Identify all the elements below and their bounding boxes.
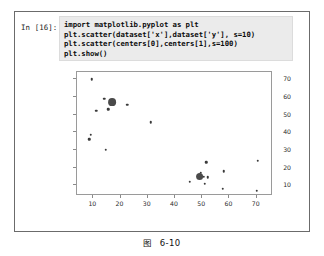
- scatter-points-layer: [77, 72, 271, 194]
- x-axis-tick-label: 60: [225, 200, 233, 207]
- scatter-point: [257, 159, 259, 161]
- code-line: import matplotlib.pyplot as plt: [64, 20, 289, 30]
- x-axis-tick-label: 30: [143, 200, 151, 207]
- x-axis-tick-label: 40: [170, 200, 178, 207]
- scatter-point: [204, 182, 206, 184]
- x-axis-tick-label: 20: [116, 200, 124, 207]
- execution-prompt-label: In [16]:: [21, 23, 57, 32]
- scatter-point: [255, 189, 257, 191]
- scatter-point: [88, 138, 90, 140]
- scatter-point: [89, 134, 91, 136]
- scatter-point: [95, 110, 97, 112]
- scatter-point: [104, 149, 106, 151]
- notebook-cell-frame: In [16]: import matplotlib.pyplot as plt…: [14, 11, 310, 232]
- scatter-point: [221, 188, 223, 190]
- code-cell-input[interactable]: In [16]: import matplotlib.pyplot as plt…: [15, 16, 311, 61]
- x-axis-tick-mark: [201, 195, 202, 198]
- x-axis-tick-label: 70: [252, 200, 260, 207]
- code-editor-area[interactable]: import matplotlib.pyplot as plt plt.scat…: [59, 16, 293, 61]
- cluster-center-marker: [108, 98, 116, 106]
- x-axis-tick-mark: [120, 195, 121, 198]
- scatter-point: [91, 78, 93, 80]
- x-axis-tick-label: 10: [88, 200, 96, 207]
- scatter-point: [149, 121, 151, 123]
- x-axis-tick-mark: [147, 195, 148, 198]
- scatter-point: [223, 170, 225, 172]
- x-axis-tick-label: 50: [197, 200, 205, 207]
- x-axis-tick-mark: [92, 195, 93, 198]
- code-line: plt.scatter(centers[0],centers[1],s=100): [64, 39, 289, 49]
- figure-caption: 图6-10: [0, 236, 324, 248]
- x-axis-tick-mark: [256, 195, 257, 198]
- code-line: plt.scatter(dataset['x'],dataset['y'], s…: [64, 30, 289, 40]
- caption-prefix: 图: [143, 238, 152, 248]
- x-axis-tick-mark: [174, 195, 175, 198]
- scatter-point: [189, 181, 191, 183]
- code-cell-output: 10203040506070 10203040506070: [15, 64, 311, 230]
- code-line: plt.show(): [64, 49, 289, 59]
- caption-number: 6-10: [160, 238, 181, 248]
- x-axis-tick-mark: [228, 195, 229, 198]
- cluster-center-marker: [196, 173, 204, 181]
- scatter-point: [107, 108, 109, 110]
- scatter-point: [206, 176, 208, 178]
- scatter-point: [205, 161, 207, 163]
- matplotlib-figure: 10203040506070 10203040506070: [35, 64, 291, 224]
- scatter-point: [103, 97, 105, 99]
- plot-area: [76, 71, 272, 195]
- scatter-point: [126, 104, 128, 106]
